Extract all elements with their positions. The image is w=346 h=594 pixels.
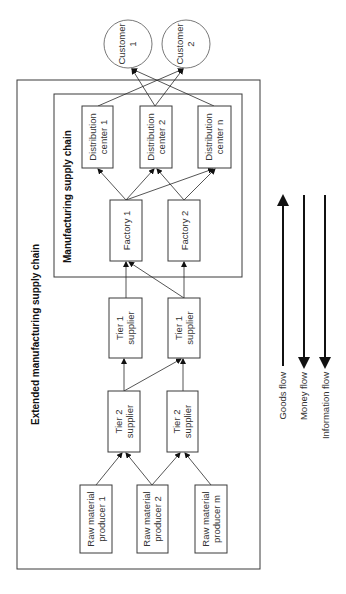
customer-1: Customer 1 (104, 20, 152, 68)
tier1-2-line1: Tier 1 (173, 316, 184, 340)
rmp-2-line1: Raw material (141, 491, 152, 546)
extended-supply-chain-label: Extended manufacturing supply chain (30, 244, 41, 425)
supply-chain-diagram: Extended manufacturing supply chain Manu… (0, 0, 346, 594)
factory-2: Factory 2 (168, 200, 200, 261)
raw-material-producer-m: Raw material producer m (195, 485, 227, 553)
information-flow: Information flow (320, 195, 331, 439)
factory-2-label: Factory 2 (179, 211, 190, 251)
factory-1: Factory 1 (110, 200, 142, 261)
tier2-2-line1: Tier 2 (171, 410, 182, 434)
money-flow-label: Money flow (298, 372, 309, 420)
dc-1-line1: Distribution (87, 113, 98, 161)
distribution-center-1: Distribution center 1 (82, 106, 113, 168)
tier1-1-line1: Tier 1 (114, 316, 125, 340)
dc-n-line1: Distribution (203, 113, 214, 161)
goods-flow-label: Goods flow (277, 372, 288, 420)
dc-n-line2: center n (214, 120, 225, 154)
rmp-2-line2: producer 2 (152, 496, 163, 541)
legend: Goods flow Money flow Information flow (277, 195, 331, 439)
distribution-center-2: Distribution center 2 (140, 106, 172, 168)
tier2-2-line2: supplier (182, 405, 193, 438)
manufacturing-supply-chain-label: Manufacturing supply chain (62, 130, 73, 263)
customer-1-line1: Customer (116, 23, 127, 64)
raw-material-producer-1: Raw material producer 1 (80, 485, 112, 553)
factory-1-label: Factory 1 (121, 211, 132, 251)
tier1-supplier-1: Tier 1 supplier (109, 298, 142, 358)
rmp-1-line2: producer 1 (96, 496, 107, 541)
tier1-supplier-2: Tier 1 supplier (168, 298, 200, 358)
dc-1-line2: center 1 (98, 120, 109, 154)
tier2-supplier-1: Tier 2 supplier (108, 391, 140, 452)
raw-material-producer-2: Raw material producer 2 (137, 485, 168, 553)
tier1-1-line2: supplier (125, 311, 136, 344)
tier2-1-line1: Tier 2 (113, 410, 124, 434)
tier2-supplier-2: Tier 2 supplier (167, 391, 198, 452)
goods-flow: Goods flow (277, 196, 288, 420)
information-flow-label: Information flow (320, 372, 331, 439)
rmp-m-line2: producer m (211, 495, 222, 543)
customer-2: Customer 2 (162, 20, 210, 68)
tier2-1-line2: supplier (124, 405, 135, 438)
tier1-2-line2: supplier (184, 311, 195, 344)
customer-2-line1: Customer (174, 23, 185, 64)
money-flow: Money flow (298, 195, 309, 420)
rmp-1-line1: Raw material (85, 491, 96, 546)
distribution-center-n: Distribution center n (198, 106, 231, 168)
customer-1-line2: 1 (127, 41, 138, 46)
dc-2-line1: Distribution (145, 113, 156, 161)
rmp-m-line1: Raw material (200, 491, 211, 546)
dc-2-line2: center 2 (156, 120, 167, 154)
customer-2-line2: 2 (185, 41, 196, 46)
